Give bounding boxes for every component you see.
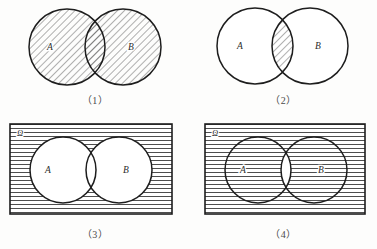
set-a-label: A xyxy=(44,165,51,175)
venn-diagram-1: A B xyxy=(0,0,190,92)
figure-caption-3: （3） xyxy=(0,226,190,241)
universe-label: Ω xyxy=(17,128,23,138)
set-b-label: B xyxy=(123,165,129,175)
set-a-label: A xyxy=(46,42,53,52)
set-b-label: B xyxy=(318,165,324,175)
figure-caption-4: （4） xyxy=(190,226,377,241)
figure-caption-2: （2） xyxy=(190,92,377,107)
set-b-label: B xyxy=(315,41,321,51)
set-b-label: B xyxy=(128,42,134,52)
shaded-region-complement-intersection xyxy=(205,124,365,214)
venn-diagram-figure-sheet: A B （1） A B （2） xyxy=(0,0,377,249)
venn-diagram-4: Ω A B xyxy=(190,112,377,226)
universe-label: Ω xyxy=(212,128,218,138)
set-a-label: A xyxy=(236,41,243,51)
venn-diagram-3: Ω A B xyxy=(0,112,190,226)
shaded-region-complement-union xyxy=(10,124,172,214)
venn-diagram-2: A B xyxy=(190,0,377,92)
figure-caption-1: （1） xyxy=(0,92,190,107)
set-a-label: A xyxy=(239,165,246,175)
